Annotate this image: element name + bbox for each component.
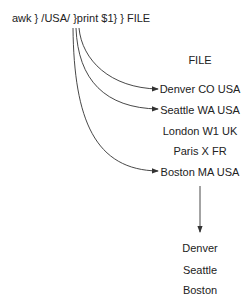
file-line-2: Seattle WA USA: [155, 104, 245, 116]
file-line-3: London W1 UK: [155, 125, 245, 137]
output-line-3: Boston: [155, 284, 245, 296]
file-line-1: Denver CO USA: [155, 83, 245, 95]
output-line-1: Denver: [155, 242, 245, 254]
arrow-to-boston: [73, 28, 158, 171]
file-line-4: Paris X FR: [155, 145, 245, 157]
output-line-2: Seattle: [155, 264, 245, 276]
awk-command: awk } /USA/ }print $1} } FILE: [12, 12, 150, 24]
arrow-to-seattle: [76, 28, 158, 109]
file-line-5: Boston MA USA: [155, 166, 245, 178]
file-label: FILE: [155, 54, 245, 66]
